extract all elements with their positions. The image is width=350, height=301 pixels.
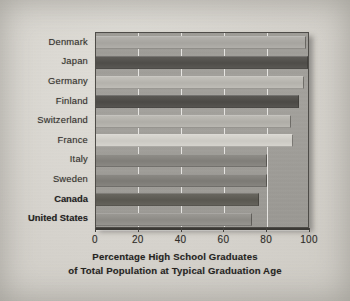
- bar-row: [96, 174, 309, 187]
- bar-switzerland: [96, 115, 291, 128]
- bar-row: [96, 193, 309, 206]
- bar-united-states: [96, 213, 252, 226]
- bar-row: [96, 154, 309, 167]
- x-tick-80: [266, 228, 267, 232]
- y-label-japan: Japan: [61, 55, 88, 67]
- y-label-united-states: United States: [28, 212, 88, 224]
- y-label-germany: Germany: [48, 75, 88, 87]
- caption-line-2: of Total Population at Typical Graduatio…: [0, 264, 350, 278]
- scanned-page: DenmarkJapanGermanyFinlandSwitzerlandFra…: [0, 0, 350, 301]
- bar-row: [96, 56, 309, 69]
- y-label-italy: Italy: [70, 153, 88, 165]
- y-label-switzerland: Switzerland: [37, 114, 88, 126]
- bar-sweden: [96, 174, 267, 187]
- x-axis-tick-labels: 020406080100: [0, 233, 350, 247]
- caption-line-1: Percentage High School Graduates: [0, 250, 350, 264]
- x-tick-label-20: 20: [132, 233, 144, 246]
- y-label-france: France: [58, 134, 88, 146]
- bar-row: [96, 95, 309, 108]
- x-tick-label-40: 40: [175, 233, 187, 246]
- bar-canada: [96, 193, 259, 206]
- bar-row: [96, 134, 309, 147]
- x-tick-label-0: 0: [92, 233, 98, 246]
- bar-finland: [96, 95, 299, 108]
- bar-france: [96, 134, 293, 147]
- x-tick-20: [138, 228, 139, 232]
- bar-italy: [96, 154, 267, 167]
- bar-row: [96, 76, 309, 89]
- y-label-canada: Canada: [54, 193, 88, 205]
- x-tick-60: [223, 228, 224, 232]
- bar-row: [96, 36, 309, 49]
- y-axis-category-labels: DenmarkJapanGermanyFinlandSwitzerlandFra…: [4, 32, 92, 228]
- bar-germany: [96, 76, 304, 89]
- bar-denmark: [96, 36, 306, 49]
- plot-area: [95, 32, 309, 228]
- x-tick-label-100: 100: [300, 233, 318, 246]
- y-label-finland: Finland: [56, 95, 88, 107]
- chart-caption: Percentage High School Graduates of Tota…: [0, 250, 350, 277]
- x-axis-line: [95, 228, 310, 230]
- x-tick-label-60: 60: [218, 233, 230, 246]
- y-label-denmark: Denmark: [49, 36, 88, 48]
- x-tick-label-80: 80: [260, 233, 272, 246]
- y-label-sweden: Sweden: [53, 173, 88, 185]
- x-tick-40: [181, 228, 182, 232]
- bar-japan: [96, 56, 308, 69]
- bar-chart-figure: DenmarkJapanGermanyFinlandSwitzerlandFra…: [0, 0, 350, 301]
- bar-row: [96, 213, 309, 226]
- bar-row: [96, 115, 309, 128]
- x-tick-0: [95, 228, 96, 232]
- x-tick-100: [309, 228, 310, 232]
